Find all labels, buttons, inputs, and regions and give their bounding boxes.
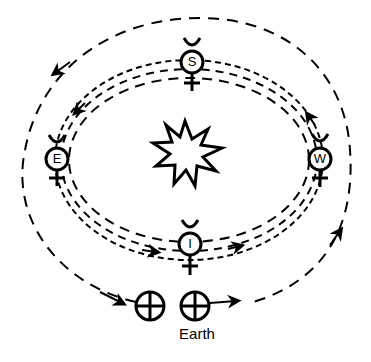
- sun-icon: [153, 121, 222, 186]
- mercury-label-western: W: [310, 151, 330, 166]
- arrow-icon: [330, 231, 340, 245]
- arrow-icon: [142, 250, 156, 252]
- arrow-icon: [55, 62, 70, 73]
- arrow-icon: [308, 115, 315, 125]
- earth-label: Earth: [167, 325, 227, 342]
- arrow-icon: [210, 301, 236, 303]
- earth-symbol: [181, 292, 209, 320]
- mercury-label-inferior: I: [180, 236, 200, 251]
- mercury-label-eastern: E: [47, 151, 67, 166]
- mercury-label-superior: S: [182, 54, 202, 69]
- earth-symbol: [136, 292, 164, 320]
